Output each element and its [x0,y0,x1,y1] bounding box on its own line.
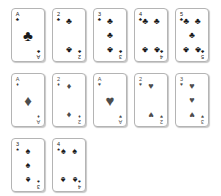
card-index-bottom-right: 2♦ [76,114,83,125]
ace-of-hearts[interactable]: A♥♥A♥ [93,73,127,127]
three-of-hearts[interactable]: 3♥♥♥♥3♥ [175,73,209,127]
hearts-suit-icon: ♥ [160,114,163,119]
ace-of-clubs[interactable]: A♣♣A♣ [11,8,45,62]
two-of-hearts[interactable]: 2♥♥♥2♥ [134,73,168,127]
four-of-clubs[interactable]: 4♣♣♣♣♣4♣ [134,8,168,62]
clubs-pip-icon: ♣ [107,16,113,25]
spades-pip-icon: ♠ [26,161,31,170]
diamonds-pip-icon: ♦ [67,110,72,119]
spades-pip-icon: ♠ [26,175,31,184]
clubs-suit-icon: ♣ [201,49,204,54]
spades-pip-icon: ♠ [61,174,66,183]
spades-pip-icon: ♠ [26,146,31,155]
card-index-bottom-right: 3♠ [35,179,42,190]
card-index-bottom-right: 3♥ [199,114,206,125]
five-of-clubs[interactable]: 5♣♣♣♣♣♣5♣ [175,8,209,62]
clubs-pip-icon: ♣ [154,17,160,26]
card-row: 3♠♠♠♠3♠4♠♠♠♠♠4♠ [11,138,221,192]
two-of-clubs[interactable]: 2♣♣♣2♣ [52,8,86,62]
diamonds-suit-icon: ♦ [37,114,40,119]
card-index-bottom-right: A♣ [35,49,42,60]
four-of-spades[interactable]: 4♠♠♠♠♠4♠ [52,138,86,192]
diamonds-pip-icon: ♦ [24,93,32,108]
clubs-pip-icon: ♣ [183,16,189,25]
clubs-pip-icon: ♣ [107,45,113,54]
card-index-bottom-right: 2♣ [76,49,83,60]
clubs-suit-icon: ♣ [160,49,163,54]
clubs-suit-icon: ♣ [78,49,81,54]
three-of-spades[interactable]: 3♠♠♠♠3♠ [11,138,45,192]
card-index-bottom-right: 4♠ [76,179,83,190]
card-index-bottom-right: 2♥ [158,114,165,125]
spades-suit-icon: ♠ [37,179,40,184]
clubs-pip-icon: ♣ [107,31,113,40]
clubs-suit-icon: ♣ [37,49,40,54]
hearts-pip-icon: ♥ [148,110,153,119]
card-index-bottom-right: A♥ [117,114,124,125]
clubs-pip-icon: ♣ [23,28,33,43]
three-of-clubs[interactable]: 3♣♣♣♣3♣ [93,8,127,62]
hearts-pip-icon: ♥ [189,110,194,119]
ace-of-diamonds[interactable]: A♦♦A♦ [11,73,45,127]
card-index-bottom-right: 3♣ [117,49,124,60]
hearts-pip-icon: ♥ [106,93,115,108]
hearts-suit-icon: ♥ [119,114,122,119]
spades-pip-icon: ♠ [61,147,66,156]
diamonds-suit-icon: ♦ [78,114,81,119]
clubs-pip-icon: ♣ [66,16,72,25]
hearts-pip-icon: ♥ [148,81,153,90]
spades-suit-icon: ♠ [78,179,81,184]
card-index-bottom-right: 5♣ [199,49,206,60]
clubs-pip-icon: ♣ [189,31,195,40]
card-table: A♣♣A♣2♣♣♣2♣3♣♣♣♣3♣4♣♣♣♣♣4♣5♣♣♣♣♣♣5♣A♦♦A♦… [0,0,221,196]
spades-pip-icon: ♠ [72,147,77,156]
clubs-pip-icon: ♣ [142,17,148,26]
card-row: A♦♦A♦2♦♦♦2♦A♥♥A♥2♥♥♥2♥3♥♥♥♥3♥ [11,73,221,127]
hearts-pip-icon: ♥ [189,81,194,90]
card-index-bottom-right: 4♣ [158,49,165,60]
clubs-pip-icon: ♣ [66,45,72,54]
clubs-pip-icon: ♣ [195,16,201,25]
diamonds-pip-icon: ♦ [67,81,72,90]
clubs-pip-icon: ♣ [142,44,148,53]
hearts-pip-icon: ♥ [189,96,194,105]
hearts-suit-icon: ♥ [201,114,204,119]
two-of-diamonds[interactable]: 2♦♦♦2♦ [52,73,86,127]
clubs-suit-icon: ♣ [119,49,122,54]
card-index-bottom-right: A♦ [35,114,42,125]
clubs-pip-icon: ♣ [183,45,189,54]
card-row: A♣♣A♣2♣♣♣2♣3♣♣♣♣3♣4♣♣♣♣♣4♣5♣♣♣♣♣♣5♣ [11,8,221,62]
